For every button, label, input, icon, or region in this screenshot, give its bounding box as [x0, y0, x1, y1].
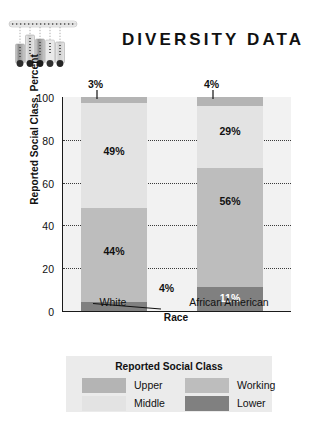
x-axis-title: Race — [62, 312, 290, 323]
callout-aa-upper: 4% — [204, 78, 219, 90]
y-tick-80: 80 — [22, 136, 54, 147]
diversity-data-chart: Reported Social Class, Percent 100 80 60… — [0, 78, 322, 340]
y-tick-0: 0 — [22, 307, 54, 318]
legend-label-middle: Middle — [134, 397, 165, 409]
callout-white-upper: 3% — [88, 78, 103, 90]
segment-aa-middle[interactable]: 29% — [197, 106, 263, 168]
segment-aa-working[interactable]: 56% — [197, 168, 263, 288]
segment-white-middle[interactable]: 49% — [81, 103, 147, 208]
legend-swatch-working — [185, 378, 229, 393]
legend-label-upper: Upper — [134, 379, 163, 391]
legend-swatch-middle — [82, 396, 126, 411]
legend-title: Reported Social Class — [66, 361, 272, 372]
x-tick-white: White — [53, 296, 173, 308]
y-tick-100: 100 — [22, 93, 54, 104]
segment-white-middle-value: 49% — [81, 146, 147, 157]
legend-label-lower: Lower — [237, 397, 266, 409]
segment-aa-upper[interactable] — [197, 97, 263, 106]
segment-white-working-value: 44% — [81, 246, 147, 257]
page-title: DIVERSITY DATA — [118, 30, 308, 50]
y-tick-20: 20 — [22, 264, 54, 275]
legend-label-working: Working — [237, 379, 275, 391]
callout-white-lower: 4% — [159, 282, 174, 294]
thermometer-gauges-icon — [8, 18, 78, 70]
y-tick-40: 40 — [22, 221, 54, 232]
legend-swatch-upper — [82, 378, 126, 393]
bar-white[interactable]: 49% 44% — [81, 97, 147, 311]
segment-aa-working-value: 56% — [197, 196, 263, 207]
x-tick-african-american: African American — [169, 296, 289, 308]
leader-line-white-upper — [96, 90, 98, 99]
plot-area: 49% 44% 29% 56% 11% — [62, 97, 291, 312]
legend-swatch-lower — [185, 396, 229, 411]
segment-white-working[interactable]: 44% — [81, 208, 147, 302]
chart-legend: Reported Social Class Upper Working Midd… — [66, 356, 272, 412]
bar-african-american[interactable]: 29% 56% 11% — [197, 97, 263, 311]
y-tick-60: 60 — [22, 179, 54, 190]
leader-line-aa-upper — [212, 90, 214, 99]
chart-header: DIVERSITY DATA — [0, 0, 322, 78]
segment-aa-middle-value: 29% — [197, 126, 263, 137]
